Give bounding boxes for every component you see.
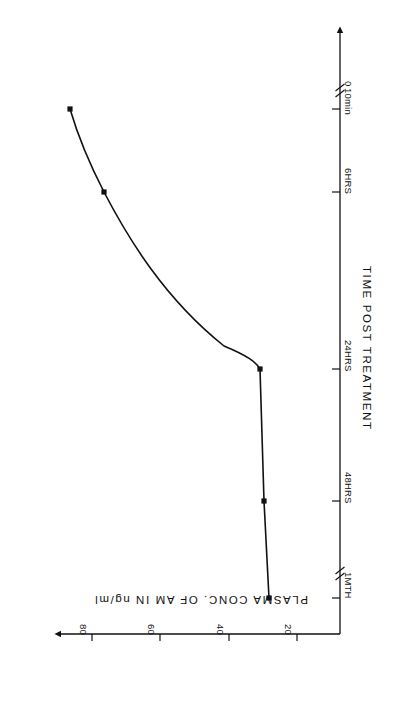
value-tick-label-40: 40: [215, 624, 226, 635]
time-tick-label-1mth: 1MTH: [343, 572, 354, 599]
time-tick-label-24hrs: 24HRS: [343, 340, 354, 372]
data-series-plasma-conc: [67, 106, 271, 600]
value-tick-label-20: 20: [283, 624, 294, 635]
value-tick-label-80: 80: [78, 624, 89, 635]
rotated-figure-canvas: 80 60 40 20 PLASMA CONC. OF AM IN ng/ml …: [0, 0, 400, 706]
value-tick-label-60: 60: [146, 624, 157, 635]
data-point-10min: [67, 106, 72, 111]
time-tick-label-48hrs: 48HRS: [343, 472, 354, 504]
time-tick-label-0: 0: [343, 81, 354, 86]
data-point-48hrs: [261, 498, 266, 503]
data-point-6hrs: [101, 189, 106, 194]
time-tick-label-6hrs: 6HRS: [343, 168, 354, 194]
data-point-24hrs: [257, 366, 262, 371]
time-axis: [332, 32, 345, 634]
value-axis-title: PLASMA CONC. OF AM IN ng/ml: [94, 594, 308, 606]
time-axis-title: TIME POST TREATMENT: [361, 266, 373, 431]
value-axis: [60, 634, 340, 641]
data-line: [70, 109, 269, 598]
figure-root: 80 60 40 20 PLASMA CONC. OF AM IN ng/ml …: [0, 0, 400, 706]
time-tick-label-10min: 10min: [343, 88, 354, 115]
